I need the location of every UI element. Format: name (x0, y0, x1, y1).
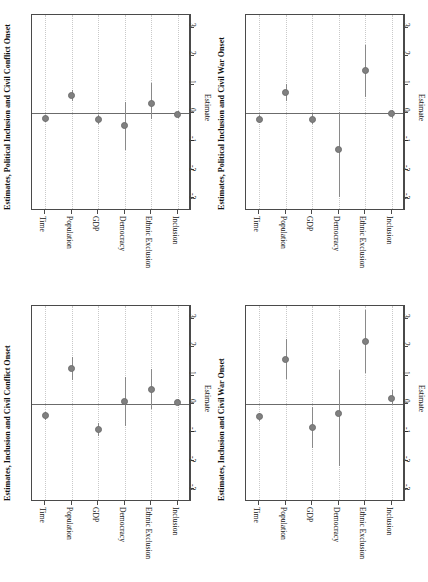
zero-reference-line (32, 113, 189, 114)
category-label: Ethnic Exclusion (144, 507, 153, 559)
estimate-point[interactable] (121, 122, 128, 129)
category-label: Inclusion (385, 216, 394, 244)
category-tick (338, 501, 339, 505)
category-gridline (286, 15, 287, 209)
category-label-wrap: Time (261, 216, 262, 217)
category-tick (258, 501, 259, 505)
estimate-point[interactable] (362, 338, 369, 345)
confidence-interval-whisker (339, 112, 340, 196)
category-label: Inclusion (171, 507, 180, 535)
category-gridline (259, 15, 260, 209)
estimate-point[interactable] (335, 410, 342, 417)
estimate-point[interactable] (148, 100, 155, 107)
category-label-wrap: GDP (314, 507, 315, 508)
estimate-point[interactable] (68, 365, 75, 372)
category-gridline (98, 306, 99, 500)
category-label: Time (38, 216, 47, 232)
category-gridline (312, 15, 313, 209)
estimate-axis-line (190, 305, 191, 501)
estimate-point[interactable] (256, 116, 263, 123)
category-label: Population (279, 507, 288, 540)
estimate-axis-title: Estimate (417, 385, 426, 412)
estimate-point[interactable] (95, 116, 102, 123)
category-label: Democracy (332, 507, 341, 542)
estimate-point[interactable] (388, 110, 395, 117)
category-label-wrap: Ethnic Exclusion (367, 216, 368, 217)
category-label-wrap: Time (47, 507, 48, 508)
estimate-point[interactable] (42, 412, 49, 419)
estimate-point[interactable] (42, 115, 49, 122)
category-label: Democracy (332, 216, 341, 251)
category-tick (364, 210, 365, 214)
category-label-wrap: Ethnic Exclusion (153, 216, 154, 217)
estimate-point[interactable] (174, 111, 181, 118)
category-label: Population (65, 507, 74, 540)
category-label-wrap: Inclusion (180, 507, 181, 508)
coefficient-plot-panel: Estimates, Political Inclusion and Civil… (0, 0, 214, 291)
category-tick (44, 210, 45, 214)
estimate-axis-line (190, 14, 191, 210)
panel-title: Estimates, Inclusion and Civil War Onset (226, 305, 242, 501)
zero-reference-line (246, 113, 403, 114)
estimate-point[interactable] (256, 413, 263, 420)
category-label-wrap: Democracy (341, 507, 342, 508)
category-tick (311, 210, 312, 214)
estimate-point[interactable] (388, 395, 395, 402)
category-label-wrap: Time (47, 216, 48, 217)
figure-grid: Estimates, Political Inclusion and Civil… (0, 0, 428, 582)
category-label-wrap: Ethnic Exclusion (153, 507, 154, 508)
estimate-point[interactable] (68, 92, 75, 99)
estimate-point[interactable] (309, 116, 316, 123)
category-label: Ethnic Exclusion (358, 216, 367, 268)
category-tick (285, 501, 286, 505)
category-label-wrap: Population (288, 216, 289, 217)
category-tick (285, 210, 286, 214)
category-label: Time (38, 507, 47, 523)
estimate-point[interactable] (335, 146, 342, 153)
category-tick (338, 210, 339, 214)
plot-area (31, 305, 190, 501)
category-label-wrap: Democracy (127, 216, 128, 217)
category-label: GDP (91, 507, 100, 522)
category-label: Time (252, 507, 261, 523)
category-label: Ethnic Exclusion (144, 216, 153, 268)
category-label-wrap: Ethnic Exclusion (367, 507, 368, 508)
panel-title-text: Estimates, Inclusion and Civil War Onset (217, 358, 226, 501)
estimate-point[interactable] (282, 89, 289, 96)
estimate-point[interactable] (309, 424, 316, 431)
panel-title: Estimates, Political Inclusion and Civil… (12, 14, 28, 210)
category-label: Democracy (118, 216, 127, 251)
coefficient-plot-panel: Estimates, Inclusion and Civil Conflict … (0, 291, 214, 582)
category-label-wrap: Inclusion (180, 216, 181, 217)
category-label-wrap: Democracy (127, 507, 128, 508)
category-label-wrap: Population (288, 507, 289, 508)
category-label-wrap: Population (74, 507, 75, 508)
estimate-point[interactable] (282, 356, 289, 363)
panel-title-text: Estimates, Inclusion and Civil Conflict … (3, 345, 12, 501)
estimate-axis-title: Estimate (203, 94, 212, 121)
estimate-point[interactable] (95, 426, 102, 433)
estimate-point[interactable] (362, 67, 369, 74)
confidence-interval-whisker (339, 370, 340, 466)
coefficient-plot-panel: Estimates, Political Inclusion and Civil… (214, 0, 428, 291)
estimate-axis-title: Estimate (417, 94, 426, 121)
category-tick (177, 501, 178, 505)
plot-area (31, 14, 190, 210)
panel-title-text: Estimates, Political Inclusion and Civil… (217, 37, 226, 210)
estimate-axis-line (404, 305, 405, 501)
category-tick (124, 210, 125, 214)
category-label: Time (252, 216, 261, 232)
category-gridline (45, 306, 46, 500)
plot-area (245, 305, 404, 501)
category-tick (391, 210, 392, 214)
category-gridline (312, 306, 313, 500)
category-label: Inclusion (171, 216, 180, 244)
category-tick (97, 210, 98, 214)
category-gridline (98, 15, 99, 209)
zero-reference-line (32, 404, 189, 405)
category-tick (44, 501, 45, 505)
category-tick (97, 501, 98, 505)
estimate-point[interactable] (174, 399, 181, 406)
estimate-point[interactable] (148, 386, 155, 393)
category-tick (391, 501, 392, 505)
